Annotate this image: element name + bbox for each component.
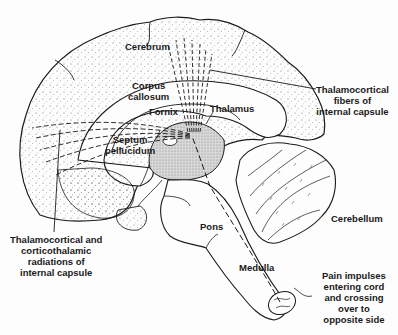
pituitary (116, 206, 146, 230)
label-cerebellum: Cerebellum (331, 213, 383, 224)
brain-diagram: Cerebrum Corpus callosum Fornix Thalamus… (0, 0, 398, 335)
label-pain-impulses: Pain impulses entering cord and crossing… (322, 270, 386, 325)
label-corpus-callosum: Corpus callosum (128, 80, 169, 102)
label-pons: Pons (200, 221, 223, 232)
label-septum-pellucidum: Septum pellucidum (105, 134, 155, 156)
label-medulla: Medulla (239, 262, 274, 273)
label-thalamocortical-radiations: Thalamocortical and corticothalamic radi… (10, 234, 102, 278)
label-cerebrum: Cerebrum (125, 41, 170, 52)
cerebellum-shape (236, 143, 336, 243)
label-thalamocortical-fibers: Thalamocortical fibers of internal capsu… (316, 84, 389, 117)
label-thalamus: Thalamus (210, 103, 254, 114)
label-fornix: Fornix (149, 106, 178, 117)
